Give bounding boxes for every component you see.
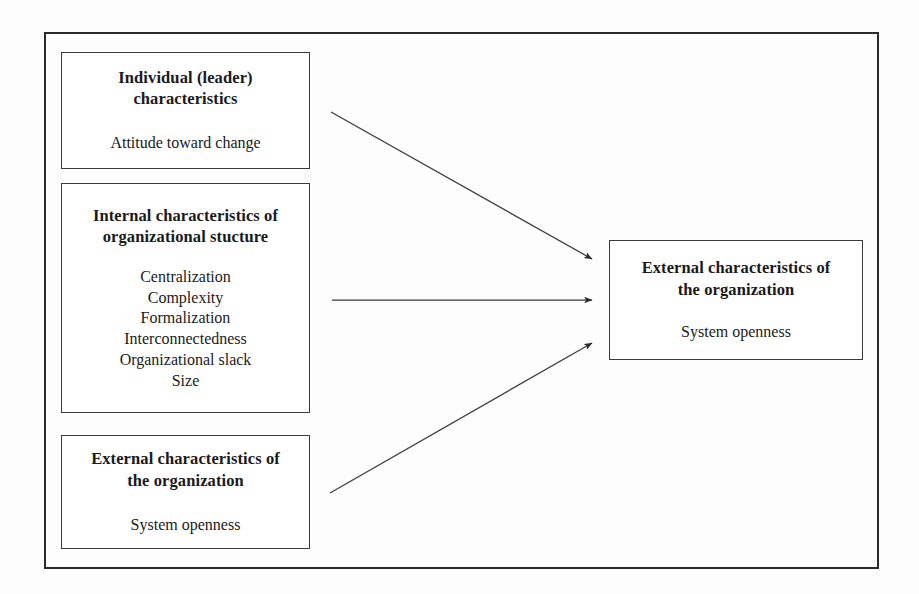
node-box-internal-characteristics[interactable]: Internal characteristics of organization… bbox=[61, 183, 310, 413]
diagram-canvas: Individual (leader) characteristics Atti… bbox=[0, 0, 919, 594]
node-title-individual: Individual (leader) characteristics bbox=[118, 67, 252, 109]
node-item: System openness bbox=[681, 322, 791, 343]
node-item: Interconnectedness bbox=[120, 329, 252, 350]
node-box-individual-characteristics[interactable]: Individual (leader) characteristics Atti… bbox=[61, 52, 310, 169]
node-item: Size bbox=[120, 371, 252, 392]
node-item: System openness bbox=[131, 515, 241, 536]
node-item: Complexity bbox=[120, 288, 252, 309]
node-items-individual: Attitude toward change bbox=[110, 133, 260, 154]
node-items-external-right: System openness bbox=[681, 322, 791, 343]
node-items-external-left: System openness bbox=[131, 515, 241, 536]
node-title-external-left: External characteristics of the organiza… bbox=[91, 448, 280, 490]
node-items-internal: Centralization Complexity Formalization … bbox=[120, 267, 252, 392]
node-item: Attitude toward change bbox=[110, 133, 260, 154]
node-box-external-characteristics-outcome[interactable]: External characteristics of the organiza… bbox=[609, 240, 863, 360]
node-item: Centralization bbox=[120, 267, 252, 288]
node-title-external-right: External characteristics of the organiza… bbox=[642, 257, 831, 299]
node-item: Organizational slack bbox=[120, 350, 252, 371]
node-box-external-characteristics-predictor[interactable]: External characteristics of the organiza… bbox=[61, 435, 310, 549]
node-title-internal: Internal characteristics of organization… bbox=[93, 205, 278, 247]
node-item: Formalization bbox=[120, 308, 252, 329]
